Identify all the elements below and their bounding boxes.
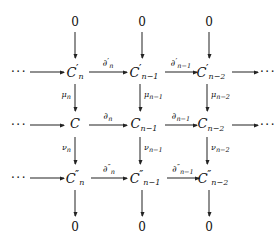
arrow-c3-to-bottom-zero-3	[209, 190, 210, 216]
arrow-row1-trail	[232, 72, 258, 73]
label-nu-1: νn	[62, 144, 71, 153]
label-row2-map1-sub: n	[108, 115, 112, 123]
label-row1-map2: ∂′n−1	[171, 57, 191, 70]
node-top-zero-1: 0	[71, 16, 79, 28]
label-row3-map2: ∂″n−1	[172, 163, 193, 176]
node-row3-col3-sub: n−2	[211, 178, 228, 187]
node-row1-trail-ellipsis: ···	[260, 66, 276, 78]
node-bottom-zero-3: 0	[205, 221, 213, 233]
label-mu-1: μn	[62, 91, 71, 100]
node-row2-trail-ellipsis: ···	[260, 119, 276, 131]
label-mu-1-sub: n	[67, 93, 71, 101]
label-row3-map1-sub: n	[111, 168, 115, 176]
node-row3-col3: C″n−2	[198, 169, 229, 187]
node-bottom-zero-1: 0	[71, 221, 79, 233]
arrow-mu-2	[140, 84, 141, 111]
label-mu-3-sub: n−2	[216, 93, 230, 101]
node-row2-col2: Cn−1	[131, 117, 158, 132]
node-row1-col2-sub: n−1	[142, 72, 159, 81]
arrow-row1-map1	[89, 72, 127, 73]
node-top-zero-2: 0	[138, 16, 146, 28]
node-top-zero-3: 0	[205, 16, 213, 28]
node-row3-col1: C″n	[66, 169, 85, 187]
label-row2-map1: ∂n	[104, 112, 113, 122]
label-mu-3: μn−2	[211, 91, 230, 100]
node-bottom-zero-2: 0	[138, 221, 146, 233]
node-row2-lead-ellipsis: ···	[11, 119, 27, 131]
arrow-row2-map1	[89, 125, 127, 126]
commutative-diagram: 0 0 0 ··· C′n ∂′n C′n−1 ∂′n−1 C′n−2 ··· …	[0, 0, 280, 250]
node-row2-col1: C	[70, 117, 80, 132]
arrow-top-zero-3-to-c3	[209, 32, 210, 58]
node-row1-col3-sub: n−2	[209, 72, 226, 81]
node-row1-col1: C′n	[66, 63, 83, 81]
arrow-row1-map2	[165, 72, 197, 73]
arrow-row3-map2	[167, 178, 199, 179]
node-row2-col2-base: C	[131, 116, 141, 131]
label-mu-2: μn−1	[144, 91, 163, 100]
arrow-nu-1	[75, 137, 76, 164]
label-nu-2-sub: n−1	[149, 146, 163, 154]
arrow-top-zero-1-to-c1	[75, 32, 76, 58]
label-mu-2-sub: n−1	[149, 93, 163, 101]
node-row3-lead-ellipsis: ···	[11, 172, 27, 184]
arrow-nu-2	[140, 137, 141, 164]
label-nu-2: νn−1	[144, 144, 163, 153]
arrow-row1-lead	[30, 72, 64, 73]
arrow-c2-to-bottom-zero-2	[142, 190, 143, 216]
label-row1-map1: ∂′n	[103, 57, 114, 70]
node-row1-col2: C′n−1	[130, 63, 159, 81]
arrow-c1-to-bottom-zero-1	[75, 190, 76, 216]
arrow-row3-lead	[30, 178, 64, 179]
arrow-row3-map1	[91, 178, 127, 179]
node-row2-col3-sub: n−2	[208, 124, 225, 133]
node-row3-col2: C″n−1	[130, 169, 161, 187]
label-nu-3: νn−2	[211, 144, 230, 153]
node-row3-col2-sub: n−1	[143, 178, 160, 187]
label-row1-map1-sub: n	[109, 62, 113, 70]
node-row1-col3: C′n−2	[197, 63, 226, 81]
node-row1-lead-ellipsis: ···	[11, 66, 27, 78]
label-row1-map2-sub: n−1	[177, 62, 191, 70]
arrow-row2-trail	[232, 125, 258, 126]
arrow-mu-3	[207, 84, 208, 111]
node-row1-col1-sub: n	[78, 72, 83, 81]
node-row2-col1-base: C	[70, 116, 80, 131]
node-row2-col2-sub: n−1	[141, 124, 158, 133]
node-row3-col1-sub: n	[79, 178, 84, 187]
label-nu-1-sub: n	[67, 146, 71, 154]
label-row2-map2-sub: n−1	[176, 115, 190, 123]
node-row2-col3: Cn−2	[198, 117, 225, 132]
arrow-top-zero-2-to-c2	[142, 32, 143, 58]
arrow-row2-map2	[165, 125, 197, 126]
arrow-row2-lead	[30, 125, 64, 126]
node-row2-col3-base: C	[198, 116, 208, 131]
label-nu-3-sub: n−2	[216, 146, 230, 154]
arrow-nu-3	[207, 137, 208, 164]
label-row3-map1: ∂″n	[103, 163, 115, 176]
label-row3-map2-sub: n−1	[180, 168, 194, 176]
arrow-mu-1	[75, 84, 76, 111]
label-row2-map2: ∂n−1	[172, 112, 190, 122]
